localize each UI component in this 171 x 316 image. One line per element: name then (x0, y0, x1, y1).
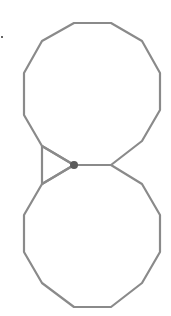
highlighted-vertex[interactable] (70, 161, 78, 169)
connector-triangle (42, 146, 74, 184)
corner-mark (1, 36, 3, 38)
top-dodecagon (24, 23, 160, 165)
graph-diagram (0, 0, 171, 316)
bottom-dodecagon (24, 165, 160, 307)
